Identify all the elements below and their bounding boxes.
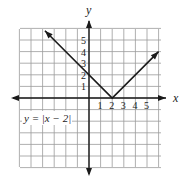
x-tick-label: 3 [121, 100, 126, 111]
x-tick-label: 2 [109, 100, 114, 111]
y-axis-up-arrow-icon [86, 20, 92, 28]
y-axis-down-arrow-icon [86, 168, 92, 176]
y-tick-label: 5 [81, 35, 86, 46]
x-axis-right-arrow-icon [158, 95, 166, 101]
graph: 12345 12345 x y y = |x − 2| [0, 0, 188, 184]
y-axis-label: y [85, 3, 92, 17]
x-tick-label: 1 [98, 100, 103, 111]
equation-label: y = |x − 2| [23, 112, 71, 124]
curve-abs-value [45, 31, 159, 98]
y-tick-label: 3 [81, 58, 86, 69]
x-axis-label: x [172, 91, 179, 105]
y-tick-label: 1 [81, 81, 86, 92]
x-axis-left-arrow-icon [11, 95, 19, 101]
x-tick-label: 5 [144, 100, 149, 111]
y-tick-label: 2 [81, 70, 86, 81]
y-tick-label: 4 [81, 47, 86, 58]
y-tick-labels: 12345 [81, 35, 86, 92]
x-tick-label: 4 [132, 100, 137, 111]
